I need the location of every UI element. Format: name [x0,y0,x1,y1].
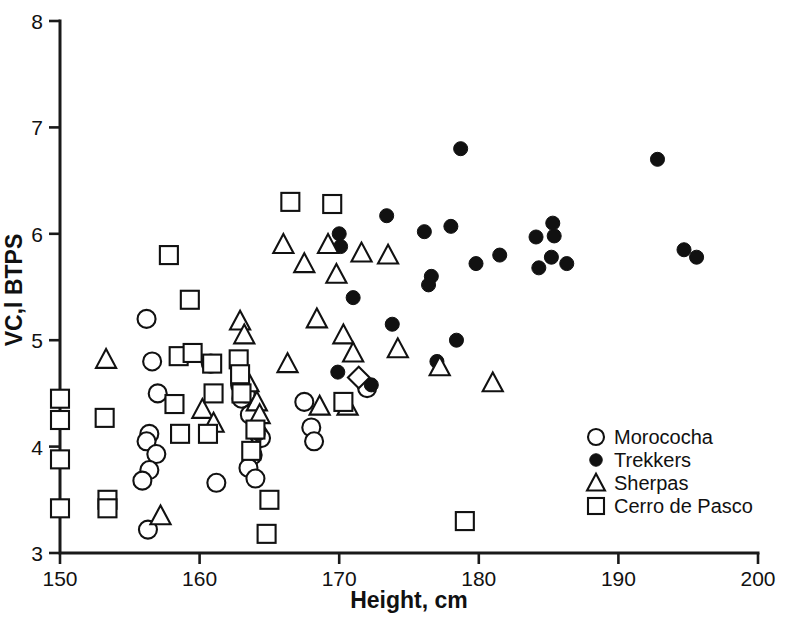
data-point [532,261,546,275]
axes: 150160170180190200 345678 Height, cm VC,… [1,10,776,613]
data-point [334,393,352,411]
legend-label: Cerro de Pasco [614,495,753,517]
data-point [96,409,114,427]
x-axis-title: Height, cm [350,587,468,613]
data-point [307,309,327,328]
data-point [417,225,431,239]
legend-marker-filled-circle-icon [590,454,602,466]
data-point [51,390,69,408]
data-point [203,355,221,373]
data-point [483,372,503,391]
y-tick-label: 8 [31,10,43,33]
data-point [456,512,474,530]
data-point [385,317,399,331]
data-point [650,152,664,166]
y-axis-title: VC,l BTPS [1,234,27,346]
x-tick-label: 160 [182,567,217,590]
data-point [184,344,202,362]
data-point [277,353,297,372]
data-point [332,227,346,241]
data-markers [51,142,704,543]
legend-item-sherpas: Sherpas [587,472,688,494]
data-point [51,499,69,517]
x-tick-label: 190 [601,567,636,590]
data-point [546,216,560,230]
data-point [232,384,250,402]
data-point [273,234,293,253]
data-point [305,432,323,450]
legend-label: Trekkers [614,449,691,471]
data-point [258,525,276,543]
legend-item-morococha: Morococha [588,426,714,448]
data-point [51,411,69,429]
data-point [547,229,561,243]
y-tick-label: 5 [31,329,43,352]
legend-marker-open-triangle-icon [587,474,605,491]
data-point [281,193,299,211]
legend-marker-open-square-icon [588,498,604,514]
y-tick-label: 6 [31,223,43,246]
data-point [388,338,408,357]
data-point [138,310,156,328]
data-point [422,278,436,292]
x-tick-label: 150 [42,567,77,590]
data-point [133,472,151,490]
data-point [96,349,116,368]
data-point [380,209,394,223]
data-point [493,248,507,262]
data-point [690,250,704,264]
data-point [149,384,167,402]
legend: MorocochaTrekkersSherpasCerro de Pasco [587,426,753,517]
data-point [560,257,574,271]
data-point [294,253,314,272]
data-point [230,311,250,330]
y-axis-tick-labels: 345678 [31,10,43,565]
data-point [346,291,360,305]
data-point [246,421,264,439]
data-point [199,425,217,443]
data-point [242,442,260,460]
data-point [444,219,458,233]
data-point [544,250,558,264]
data-point [333,325,353,344]
data-point [205,384,223,402]
x-axis-ticks [60,553,758,564]
legend-item-trekkers: Trekkers [590,449,691,471]
legend-label: Morococha [614,426,714,448]
data-point [449,333,463,347]
data-point [469,257,483,271]
y-tick-label: 7 [31,116,43,139]
y-axis-ticks [49,21,60,553]
data-point [231,365,249,383]
data-point [454,142,468,156]
data-point [323,195,341,213]
legend-item-cerro-de-pasco: Cerro de Pasco [588,495,753,517]
y-tick-label: 4 [31,436,43,459]
data-point [260,491,278,509]
data-point [246,470,264,488]
legend-label: Sherpas [614,472,689,494]
legend-marker-open-circle-icon [588,429,604,445]
data-point [143,352,161,370]
data-point [51,450,69,468]
data-point [378,245,398,264]
data-point [150,505,170,524]
data-point [351,243,371,262]
scatter-plot-figure: 150160170180190200 345678 Height, cm VC,… [0,0,787,622]
data-point [165,395,183,413]
x-tick-label: 200 [740,567,775,590]
data-point [677,243,691,257]
data-point [98,499,116,517]
plot-canvas: 150160170180190200 345678 Height, cm VC,… [0,0,787,622]
data-point [295,393,313,411]
data-point [171,425,189,443]
data-point [343,343,363,362]
data-point [529,230,543,244]
data-point [207,474,225,492]
series-sherpas [96,234,503,524]
data-point [326,264,346,283]
y-tick-label: 3 [31,542,43,565]
data-point [331,365,345,379]
data-point [181,291,199,309]
data-point [160,246,178,264]
